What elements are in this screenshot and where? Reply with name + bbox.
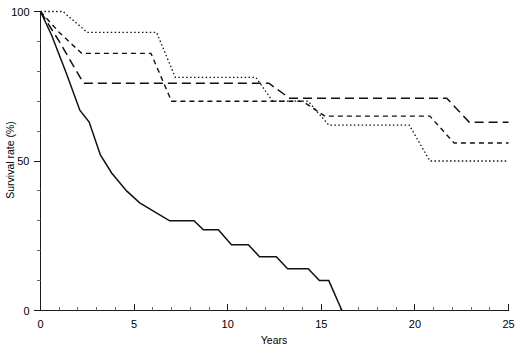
chart-canvas: 050100 0510152025 Years Survival rate (%… bbox=[0, 0, 524, 351]
x-tick-label: 25 bbox=[502, 318, 514, 330]
x-tick-label: 15 bbox=[315, 318, 327, 330]
x-axis-title: Years bbox=[261, 334, 287, 346]
y-tick-label: 100 bbox=[11, 6, 29, 18]
y-axis-ticks bbox=[34, 12, 41, 311]
x-tick-label: 5 bbox=[131, 318, 137, 330]
curve-shortdash bbox=[41, 12, 509, 144]
survival-chart: 050100 0510152025 Years Survival rate (%… bbox=[0, 0, 524, 351]
x-tick-label: 0 bbox=[37, 318, 43, 330]
y-tick-label: 0 bbox=[23, 305, 29, 317]
y-tick-label: 50 bbox=[17, 155, 29, 167]
curve-dotted bbox=[41, 12, 509, 162]
x-tick-label: 10 bbox=[222, 318, 234, 330]
curve-solid bbox=[41, 12, 342, 311]
curve-longdash bbox=[41, 12, 509, 123]
x-axis-ticks bbox=[41, 304, 509, 311]
survival-curves bbox=[41, 12, 509, 311]
x-tick-label: 20 bbox=[409, 318, 421, 330]
x-axis-tick-labels: 0510152025 bbox=[37, 318, 514, 330]
y-axis-title: Survival rate (%) bbox=[4, 121, 16, 199]
